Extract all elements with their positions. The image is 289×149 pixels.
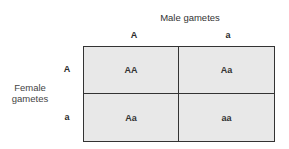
cell-Aa-top: Aa [179,47,274,94]
row-header-A: A [60,64,74,74]
female-gametes-line1: Female [8,82,52,93]
column-header-A: A [119,30,149,40]
female-gametes-label: Female gametes [8,82,52,104]
column-header-a: a [213,30,243,40]
female-gametes-line2: gametes [8,93,52,104]
cell-Aa-bottom: Aa [84,94,179,141]
male-gametes-label: Male gametes [130,12,250,23]
cell-AA: AA [84,47,179,94]
punnett-square: AA Aa Aa aa [83,46,275,142]
cell-aa: aa [179,94,274,141]
row-header-a: a [60,112,74,122]
